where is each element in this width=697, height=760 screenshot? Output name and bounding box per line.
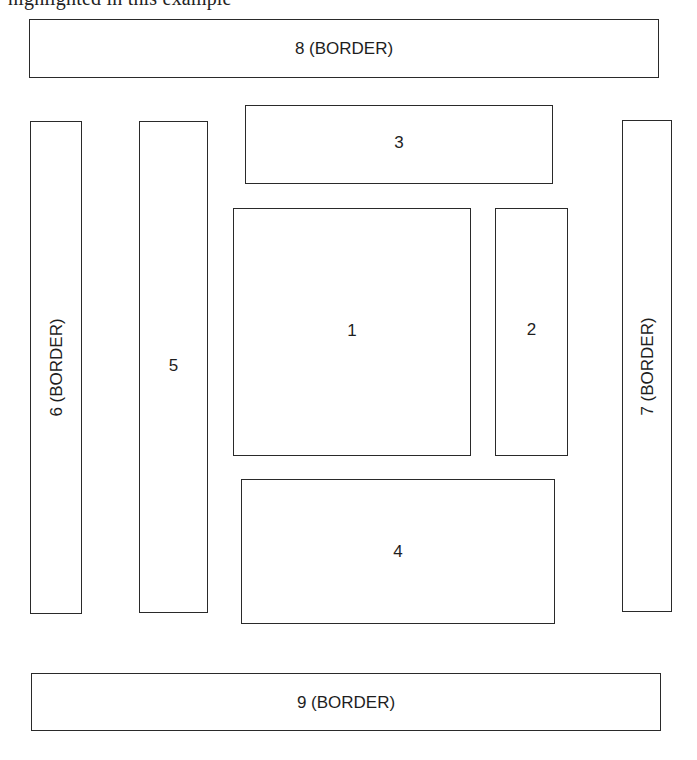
region-3-label: 3 xyxy=(394,134,403,151)
region-1-label: 1 xyxy=(347,322,356,339)
region-5-left-column: 5 xyxy=(139,121,208,613)
region-9-border-bottom: 9 (BORDER) xyxy=(31,673,661,731)
region-6-border-left: 6 (BORDER) xyxy=(30,121,82,614)
region-2-label: 2 xyxy=(527,321,536,338)
region-7-label: 7 (BORDER) xyxy=(639,317,656,415)
region-4-label: 4 xyxy=(393,543,402,560)
region-5-label: 5 xyxy=(169,357,178,374)
region-3-top-band: 3 xyxy=(245,105,553,184)
region-2-right-column: 2 xyxy=(495,208,568,456)
region-6-label: 6 (BORDER) xyxy=(48,318,65,416)
cutoff-caption-text: highlighted in this example xyxy=(8,0,232,10)
region-8-border-top: 8 (BORDER) xyxy=(29,19,659,78)
region-9-label: 9 (BORDER) xyxy=(297,694,395,711)
region-8-label: 8 (BORDER) xyxy=(295,40,393,57)
region-4-bottom-band: 4 xyxy=(241,479,555,624)
region-7-border-right: 7 (BORDER) xyxy=(622,120,672,612)
region-1-main-content: 1 xyxy=(233,208,471,456)
